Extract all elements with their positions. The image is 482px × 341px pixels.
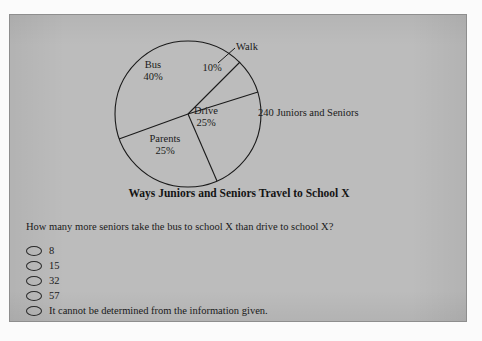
answer-option-label: It cannot be determined from the informa… <box>49 305 268 316</box>
radio-button-icon[interactable] <box>26 261 42 271</box>
pie-total-annotation: 240 Juniors and Seniors <box>258 107 359 118</box>
pie-slice-percent-parents: 25% <box>130 145 200 157</box>
radio-button-icon[interactable] <box>26 306 42 316</box>
answer-option-label: 32 <box>49 275 60 286</box>
pie-slice-label-drive: Drive 25% <box>178 105 234 128</box>
chart-title: Ways Juniors and Seniors Travel to Schoo… <box>10 187 468 199</box>
pie-slice-name-drive: Drive <box>178 105 234 117</box>
radio-button-icon[interactable] <box>26 246 42 256</box>
pie-chart-figure: Bus 40% Drive 25% Parents 25% 10% Walk 2… <box>10 15 468 190</box>
pie-slice-percent-walk: 10% <box>195 62 229 74</box>
answer-option-4[interactable]: 57 <box>26 288 446 303</box>
screenshot-root: Bus 40% Drive 25% Parents 25% 10% Walk 2… <box>0 0 482 341</box>
pie-slice-name-walk: Walk <box>236 41 258 52</box>
pie-slice-label-parents: Parents 25% <box>130 133 200 156</box>
radio-button-icon[interactable] <box>26 291 42 301</box>
pie-slice-percent-drive: 25% <box>178 117 234 129</box>
answer-option-label: 8 <box>49 245 54 256</box>
answer-option-2[interactable]: 15 <box>26 258 446 273</box>
question-text: How many more seniors take the bus to sc… <box>26 221 333 232</box>
pie-slice-name-bus: Bus <box>123 59 183 71</box>
pie-slice-name-parents: Parents <box>130 133 200 145</box>
answer-option-5[interactable]: It cannot be determined from the informa… <box>26 303 446 318</box>
radio-button-icon[interactable] <box>26 276 42 286</box>
pie-slice-percent-bus: 40% <box>123 71 183 83</box>
answer-option-label: 57 <box>49 290 60 301</box>
answer-option-1[interactable]: 8 <box>26 243 446 258</box>
question-page-panel: Bus 40% Drive 25% Parents 25% 10% Walk 2… <box>9 14 467 322</box>
answer-options-list: 8 15 32 57 It cannot be determined from … <box>26 243 446 318</box>
pie-slice-label-bus: Bus 40% <box>123 59 183 82</box>
answer-option-3[interactable]: 32 <box>26 273 446 288</box>
answer-option-label: 15 <box>49 260 60 271</box>
